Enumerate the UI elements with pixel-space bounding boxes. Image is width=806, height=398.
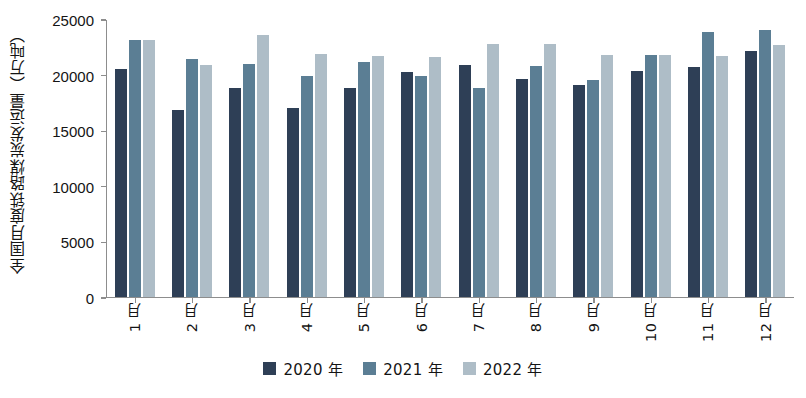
x-axis-tick-label: 12 月: [737, 302, 794, 354]
bar[interactable]: [659, 55, 671, 297]
bar[interactable]: [257, 35, 269, 297]
x-axis-tick-label: 4 月: [278, 302, 335, 354]
bar-group: [622, 20, 679, 297]
x-axis-tick-label-text: 8 月: [525, 302, 546, 332]
x-axis-tick-label-text: 9 月: [583, 302, 604, 332]
bar[interactable]: [473, 88, 485, 297]
bar[interactable]: [243, 64, 255, 298]
x-axis-tick-label: 9 月: [565, 302, 622, 354]
legend-label: 2021 年: [383, 358, 443, 379]
bar[interactable]: [716, 56, 728, 297]
x-axis-tick-label: 11 月: [679, 302, 736, 354]
bar[interactable]: [516, 79, 528, 297]
bar[interactable]: [587, 80, 599, 297]
bar[interactable]: [601, 55, 613, 297]
legend-swatch-icon: [363, 362, 376, 375]
y-axis-tick-label: 20000: [52, 67, 94, 84]
bar[interactable]: [115, 69, 127, 297]
x-axis-tick-label-text: 7 月: [468, 302, 489, 332]
x-axis-tick-label: 8 月: [507, 302, 564, 354]
bar[interactable]: [773, 45, 785, 297]
bar[interactable]: [315, 54, 327, 298]
bar-group: [163, 20, 220, 297]
legend-swatch-icon: [263, 362, 276, 375]
bar-group: [221, 20, 278, 297]
x-axis-tick-label: 10 月: [622, 302, 679, 354]
x-axis-tick-label: 2 月: [163, 302, 220, 354]
x-axis-tick-label: 7 月: [450, 302, 507, 354]
bar-groups: [106, 20, 794, 297]
bar[interactable]: [129, 40, 141, 297]
y-axis-tick-label: 15000: [52, 123, 94, 140]
bar[interactable]: [429, 57, 441, 297]
bar-group: [393, 20, 450, 297]
bar-group: [450, 20, 507, 297]
x-axis-tick-label: 3 月: [221, 302, 278, 354]
y-axis-tick: [101, 297, 106, 298]
x-axis-tick-label: 1 月: [106, 302, 163, 354]
legend-label: 2020 年: [283, 358, 343, 379]
axes: [106, 20, 794, 298]
bar[interactable]: [229, 88, 241, 297]
x-axis-tick-label-text: 10 月: [640, 302, 661, 342]
bar[interactable]: [358, 62, 370, 297]
x-axis-tick-label-text: 5 月: [353, 302, 374, 332]
x-axis-tick-label-text: 11 月: [697, 302, 718, 342]
bar-group: [507, 20, 564, 297]
y-axis-title: 全国月度铁路煤炭发运量（万吨）: [2, 0, 36, 300]
y-axis-tick-label: 5000: [61, 234, 94, 251]
y-axis-tick-label: 10000: [52, 178, 94, 195]
plot-area: 0500010000150002000025000: [38, 20, 794, 298]
bar-group: [335, 20, 392, 297]
bar[interactable]: [186, 59, 198, 297]
y-axis-tick-label: 0: [86, 290, 94, 307]
bar[interactable]: [487, 44, 499, 298]
bar[interactable]: [702, 32, 714, 297]
x-axis-tick-label-text: 12 月: [755, 302, 776, 342]
bar[interactable]: [530, 66, 542, 297]
bar-chart: 全国月度铁路煤炭发运量（万吨） 050001000015000200002500…: [0, 0, 806, 398]
x-axis-tick-label-text: 6 月: [411, 302, 432, 332]
y-axis-tick-label: 25000: [52, 12, 94, 29]
bar[interactable]: [172, 110, 184, 297]
bar[interactable]: [573, 85, 585, 297]
legend-item[interactable]: 2020 年: [263, 358, 343, 379]
bar[interactable]: [544, 44, 556, 298]
bar-group: [565, 20, 622, 297]
legend-item[interactable]: 2022 年: [463, 358, 543, 379]
bar[interactable]: [372, 56, 384, 297]
x-axis-tick-label: 5 月: [335, 302, 392, 354]
bar[interactable]: [287, 108, 299, 297]
x-axis-tick-label-text: 4 月: [296, 302, 317, 332]
bar-group: [278, 20, 335, 297]
bar[interactable]: [631, 71, 643, 297]
x-axis-tick-label-text: 1 月: [124, 302, 145, 332]
legend-item[interactable]: 2021 年: [363, 358, 443, 379]
bar[interactable]: [143, 40, 155, 297]
chart-legend: 2020 年2021 年2022 年: [0, 358, 806, 379]
x-axis-tick-label-text: 3 月: [239, 302, 260, 332]
bar[interactable]: [301, 76, 313, 297]
bar-group: [106, 20, 163, 297]
bar[interactable]: [688, 67, 700, 297]
bar-group: [737, 20, 794, 297]
bar[interactable]: [745, 51, 757, 297]
y-axis-tick-labels: 0500010000150002000025000: [38, 20, 100, 298]
bar[interactable]: [415, 76, 427, 297]
bar[interactable]: [759, 30, 771, 297]
bar[interactable]: [344, 88, 356, 297]
x-axis-tick-labels: 1 月2 月3 月4 月5 月6 月7 月8 月9 月10 月11 月12 月: [106, 302, 794, 354]
y-axis-title-text: 全国月度铁路煤炭发运量（万吨）: [8, 26, 30, 274]
bar[interactable]: [401, 72, 413, 297]
bar[interactable]: [459, 65, 471, 297]
bar[interactable]: [200, 65, 212, 297]
legend-label: 2022 年: [483, 358, 543, 379]
bar-group: [679, 20, 736, 297]
bar[interactable]: [645, 55, 657, 297]
legend-swatch-icon: [463, 362, 476, 375]
x-axis-tick-label-text: 2 月: [181, 302, 202, 332]
x-axis-tick-label: 6 月: [393, 302, 450, 354]
